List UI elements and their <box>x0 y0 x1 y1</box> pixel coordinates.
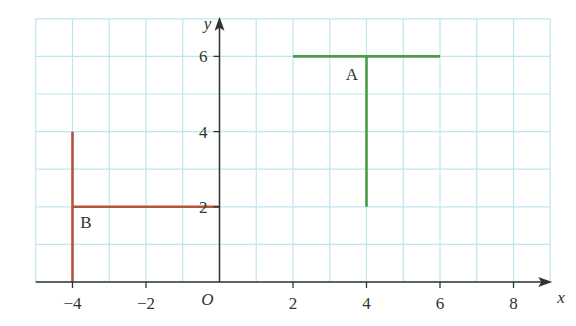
coordinate-diagram: −4−22468246OxyAB <box>0 0 576 326</box>
y-tick-label: 6 <box>199 47 208 66</box>
x-tick-label: 6 <box>436 294 445 313</box>
shape-label-a: A <box>346 65 359 84</box>
y-tick-label: 2 <box>199 198 208 217</box>
x-tick-label: −4 <box>63 294 82 313</box>
x-tick-label: 8 <box>509 294 518 313</box>
x-tick-label: 4 <box>362 294 371 313</box>
grid <box>36 19 551 282</box>
origin-label: O <box>201 290 213 309</box>
y-axis-label: y <box>202 14 212 33</box>
x-axis-label: x <box>556 288 565 307</box>
labels: −4−22468246OxyAB <box>63 14 565 313</box>
shape-label-b: B <box>80 213 91 232</box>
x-tick-label: −2 <box>137 294 155 313</box>
x-tick-label: 2 <box>289 294 298 313</box>
y-tick-label: 4 <box>199 123 208 142</box>
